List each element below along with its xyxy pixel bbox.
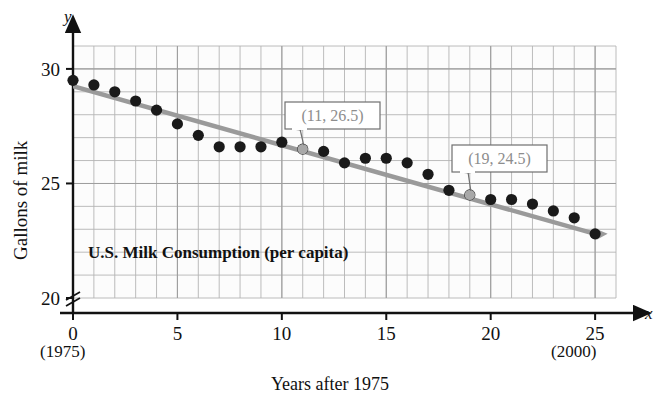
data-point	[151, 105, 162, 116]
x-tick-label: 5	[173, 323, 183, 344]
plot-title: U.S. Milk Consumption (per capita)	[88, 243, 348, 262]
y-tick-label: 20	[41, 288, 60, 309]
y-tick-label: 25	[41, 173, 60, 194]
callout-label: (19, 24.5)	[468, 150, 531, 168]
milk-consumption-chart-figure: 202530 0510152025 y x (1975) (2000) Gall…	[0, 0, 660, 399]
data-point	[402, 157, 413, 168]
data-point	[527, 198, 538, 209]
data-point	[548, 205, 559, 216]
x-tick-label: 20	[481, 323, 500, 344]
data-point	[172, 118, 183, 129]
data-point	[67, 75, 78, 86]
data-point	[130, 95, 141, 106]
chart-svg: 202530 0510152025 y x (1975) (2000) Gall…	[0, 0, 660, 399]
x-tick-label: 10	[272, 323, 291, 344]
data-point	[360, 153, 371, 164]
x-axis-start-year-label: (1975)	[40, 342, 85, 361]
data-point	[276, 137, 287, 148]
y-axis-tick-labels: 202530	[41, 59, 60, 309]
data-point	[422, 169, 433, 180]
x-axis-end-year-label: (2000)	[551, 342, 596, 361]
x-axis-tick-labels: 0510152025	[68, 323, 604, 344]
data-point	[381, 153, 392, 164]
data-point	[485, 194, 496, 205]
x-axis-variable-label: x	[644, 304, 653, 323]
y-tick-label: 30	[41, 59, 60, 80]
data-point	[109, 86, 120, 97]
data-point	[193, 130, 204, 141]
data-point	[506, 194, 517, 205]
x-tick-label: 25	[586, 323, 605, 344]
y-axis-title: Gallons of milk	[10, 140, 31, 260]
data-point	[339, 157, 350, 168]
x-tick-label: 15	[377, 323, 396, 344]
trend-reference-point	[465, 190, 475, 200]
x-tick-label: 0	[68, 323, 78, 344]
data-point	[569, 212, 580, 223]
data-point	[318, 146, 329, 157]
y-axis-variable-label: y	[62, 7, 72, 26]
data-point	[234, 141, 245, 152]
data-point	[255, 141, 266, 152]
trend-reference-point	[298, 144, 308, 154]
data-point	[443, 185, 454, 196]
data-point	[214, 141, 225, 152]
x-axis-title: Years after 1975	[271, 374, 389, 394]
data-point	[590, 228, 601, 239]
data-point	[88, 79, 99, 90]
callout-label: (11, 26.5)	[301, 107, 363, 125]
